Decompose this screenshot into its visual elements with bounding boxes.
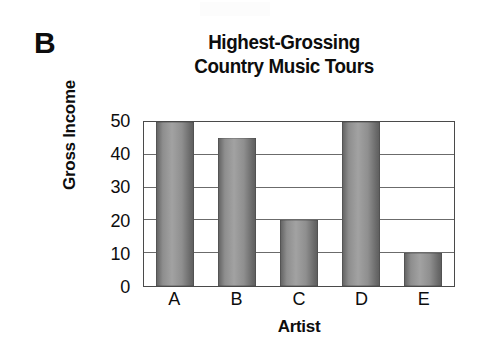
- x-tick-label: D: [330, 290, 392, 308]
- y-tick-label: 20: [111, 212, 130, 230]
- x-tick-label: B: [205, 290, 267, 308]
- y-tick-label: 0: [120, 278, 130, 296]
- scan-artifact: [200, 2, 270, 16]
- figure-panel-b: B Highest-Grossing Country Music Tours G…: [0, 0, 483, 355]
- y-axis-tick-labels: 50 40 30 20 10 0: [96, 121, 136, 287]
- bar-b: [218, 138, 255, 286]
- y-axis-title: Gross Income: [60, 55, 80, 215]
- panel-letter-label: B: [34, 28, 55, 58]
- y-tick-label: 30: [111, 178, 130, 196]
- y-tick-label: 50: [111, 112, 130, 130]
- plot-area: [143, 121, 455, 287]
- bar-slot: [144, 122, 206, 286]
- x-tick-label: A: [143, 290, 205, 308]
- bar-slot: [392, 122, 454, 286]
- chart-title: Highest-Grossing Country Music Tours: [137, 30, 430, 79]
- bar-series: [144, 122, 454, 286]
- x-axis-tick-labels: ABCDE: [143, 290, 455, 308]
- bar-slot: [206, 122, 268, 286]
- bar-slot: [268, 122, 330, 286]
- chart-title-line-2: Country Music Tours: [137, 54, 430, 78]
- x-tick-label: C: [268, 290, 330, 308]
- x-axis-title: Artist: [143, 317, 455, 337]
- y-tick-label: 40: [111, 145, 130, 163]
- chart-title-line-1: Highest-Grossing: [137, 30, 430, 54]
- bar-slot: [330, 122, 392, 286]
- x-tick-label: E: [393, 290, 455, 308]
- bar-c: [280, 220, 317, 286]
- y-tick-label: 10: [111, 245, 130, 263]
- bar-e: [404, 253, 441, 286]
- bar-d: [342, 122, 379, 286]
- bar-a: [156, 122, 193, 286]
